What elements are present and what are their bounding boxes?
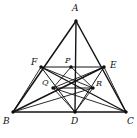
vertex-dot-B: [11, 110, 14, 113]
vertex-dot-A: [74, 19, 77, 22]
point-label-R: R: [96, 80, 102, 88]
geometry-figure: ABCDEFPQR: [0, 0, 137, 138]
vertex-dot-P: [69, 65, 72, 68]
vertex-dot-E: [102, 65, 105, 68]
point-label-F: F: [31, 58, 37, 67]
vertex-dot-C: [124, 110, 127, 113]
point-label-D: D: [71, 117, 78, 126]
segment-CE: [104, 67, 126, 112]
vertex-dot-D: [73, 110, 76, 113]
vertex-dot-F: [39, 65, 42, 68]
point-label-E: E: [110, 61, 117, 70]
vertex-dot-Q: [51, 86, 54, 89]
point-label-A: A: [72, 4, 79, 13]
point-label-P: P: [65, 57, 70, 65]
point-label-Q: Q: [42, 79, 49, 87]
point-label-B: B: [3, 117, 10, 126]
vertex-dot-R: [91, 86, 94, 89]
point-label-C: C: [127, 117, 134, 126]
